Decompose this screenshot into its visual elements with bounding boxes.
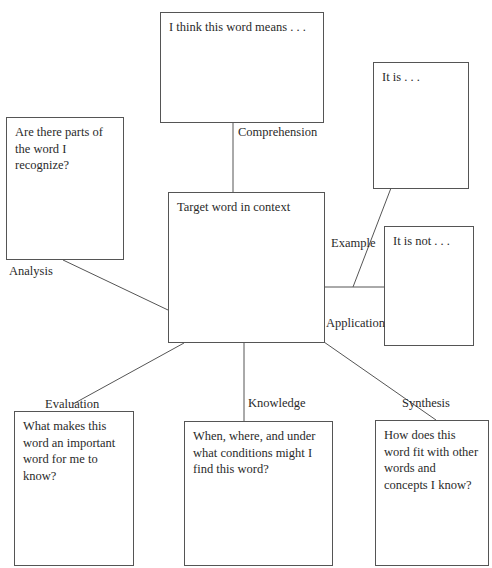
synthesis-box: How does this word fit with other words … <box>375 420 489 566</box>
knowledge-label: Knowledge <box>248 396 306 410</box>
example-label: Example <box>331 236 375 250</box>
knowledge-box-text: When, where, and under what conditions m… <box>193 429 316 476</box>
knowledge-box: When, where, and under what conditions m… <box>184 421 333 566</box>
target-word-box-text: Target word in context <box>177 200 290 214</box>
analysis-box: Are there parts of the word I recognize? <box>6 117 124 260</box>
application-label: Application <box>326 316 385 330</box>
example-is-not-box-text: It is not . . . <box>393 234 450 248</box>
analysis-label: Analysis <box>9 264 53 278</box>
comprehension-label: Comprehension <box>238 125 317 139</box>
synthesis-box-text: How does this word fit with other words … <box>384 428 478 492</box>
evaluation-box: What makes this word an important word f… <box>14 411 134 566</box>
comprehension-box: I think this word means . . . <box>160 12 324 123</box>
example-is-box: It is . . . <box>373 62 469 189</box>
evaluation-connector <box>73 343 184 404</box>
target-word-box: Target word in context <box>168 192 325 343</box>
analysis-box-text: Are there parts of the word I recognize? <box>15 125 103 172</box>
analysis-connector <box>63 260 168 310</box>
evaluation-box-text: What makes this word an important word f… <box>23 419 115 483</box>
example-is-box-text: It is . . . <box>382 70 420 84</box>
synthesis-label: Synthesis <box>402 396 450 410</box>
evaluation-label: Evaluation <box>45 397 99 411</box>
example-is-not-box: It is not . . . <box>384 226 474 346</box>
comprehension-box-text: I think this word means . . . <box>169 20 306 34</box>
